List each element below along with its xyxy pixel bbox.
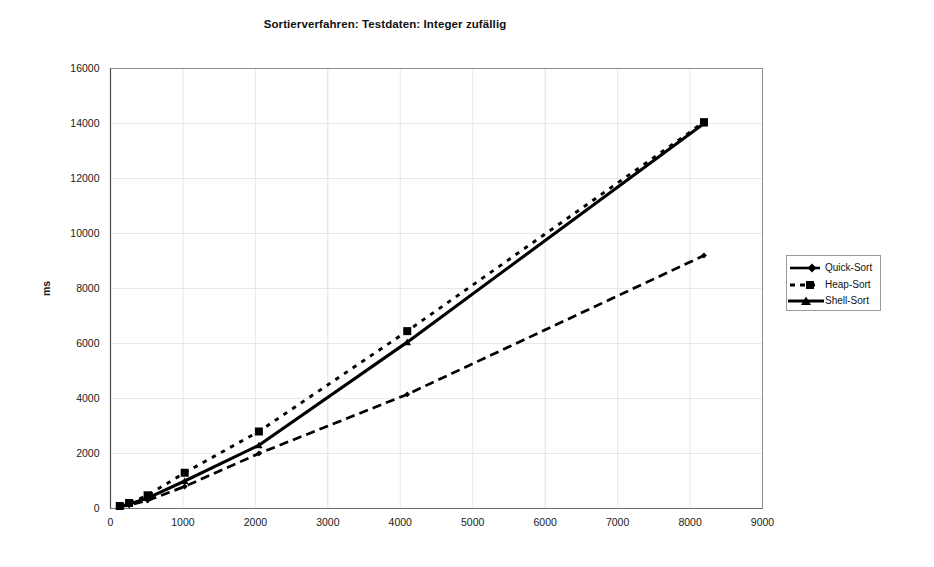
legend-item-shell-sort: Shell-Sort bbox=[787, 292, 880, 309]
svg-text:0: 0 bbox=[94, 502, 100, 514]
legend-label-shell-sort: Shell-Sort bbox=[825, 294, 869, 308]
svg-text:6000: 6000 bbox=[76, 337, 100, 349]
legend-swatch-quick-sort bbox=[787, 261, 825, 275]
svg-text:2000: 2000 bbox=[244, 516, 268, 528]
svg-text:12000: 12000 bbox=[70, 172, 99, 184]
svg-text:14000: 14000 bbox=[70, 117, 99, 129]
svg-text:8000: 8000 bbox=[76, 282, 100, 294]
svg-text:0: 0 bbox=[108, 516, 114, 528]
chart-container: Sortierverfahren: Testdaten: Integer zuf… bbox=[0, 0, 934, 567]
svg-text:10000: 10000 bbox=[70, 227, 99, 239]
svg-text:2000: 2000 bbox=[76, 447, 100, 459]
legend-item-heap-sort: Heap-Sort bbox=[787, 276, 880, 293]
chart-legend: Quick-Sort Heap-Sort Shell-Sort bbox=[786, 255, 881, 311]
x-axis-tick-labels: 0100020003000400050006000700080009000 bbox=[108, 516, 775, 528]
legend-swatch-heap-sort bbox=[787, 278, 825, 292]
svg-text:9000: 9000 bbox=[751, 516, 775, 528]
svg-text:6000: 6000 bbox=[533, 516, 557, 528]
legend-label-quick-sort: Quick-Sort bbox=[825, 261, 872, 275]
legend-swatch-shell-sort bbox=[787, 294, 825, 308]
svg-text:8000: 8000 bbox=[678, 516, 702, 528]
svg-text:5000: 5000 bbox=[461, 516, 485, 528]
y-axis-title: ms bbox=[40, 281, 52, 296]
svg-text:4000: 4000 bbox=[76, 392, 100, 404]
svg-text:4000: 4000 bbox=[389, 516, 413, 528]
legend-item-quick-sort: Quick-Sort bbox=[787, 259, 880, 276]
svg-text:1000: 1000 bbox=[171, 516, 195, 528]
legend-label-heap-sort: Heap-Sort bbox=[825, 278, 871, 292]
svg-text:ms: ms bbox=[40, 281, 52, 296]
data-series-layer bbox=[116, 118, 708, 510]
series-heap-sort bbox=[116, 118, 708, 510]
y-axis-tick-labels: 0200040006000800010000120001400016000 bbox=[70, 62, 99, 514]
grid-lines bbox=[111, 69, 763, 509]
svg-text:7000: 7000 bbox=[606, 516, 630, 528]
svg-text:16000: 16000 bbox=[70, 62, 99, 74]
svg-text:3000: 3000 bbox=[316, 516, 340, 528]
